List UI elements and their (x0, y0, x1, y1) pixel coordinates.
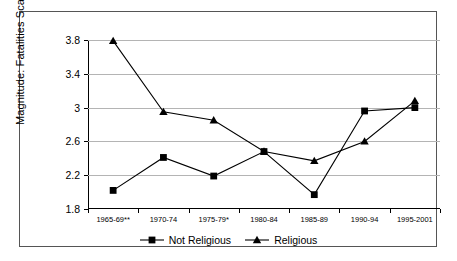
legend-item[interactable]: Religious (244, 234, 317, 246)
x-tick-mark (189, 209, 190, 213)
x-tick-label: 1975-79* (198, 216, 228, 224)
data-point-marker (109, 37, 117, 44)
x-tick-mark (339, 209, 340, 213)
legend-label: Not Religious (169, 234, 231, 246)
data-point-marker (361, 108, 368, 115)
data-point-marker (159, 108, 167, 115)
legend-triangle-icon (244, 234, 270, 246)
y-axis-title: Magnitude: Fatalities Scale (14, 0, 26, 125)
x-tick-label: 1965-69** (96, 216, 129, 224)
chart-figure: Magnitude: Fatalities Scale 1.82.22.633.… (0, 0, 457, 261)
y-tick-label: 3.8 (65, 35, 80, 46)
y-tick-label: 3.4 (65, 69, 80, 80)
y-tick-label: 2.2 (65, 170, 80, 181)
x-tick-label: 1980-84 (250, 216, 278, 224)
data-point-marker (311, 191, 318, 198)
y-tick-label: 2.6 (65, 136, 80, 147)
x-tick-label: 1985-89 (301, 216, 329, 224)
legend-square-icon (139, 234, 165, 246)
x-tick-mark (390, 209, 391, 213)
chart-legend: Not ReligiousReligious (20, 234, 436, 246)
data-point-marker (360, 137, 368, 144)
data-point-marker (411, 97, 419, 104)
data-point-marker (210, 173, 217, 180)
x-tick-label: 1995-2001 (397, 216, 433, 224)
x-tick-mark (289, 209, 290, 213)
legend-item[interactable]: Not Religious (139, 234, 231, 246)
legend-label: Religious (274, 234, 317, 246)
plot-area: 1.82.22.633.43.8 1965-69**1970-741975-79… (88, 40, 440, 209)
x-tick-mark (239, 209, 240, 213)
x-tick-label: 1970-74 (150, 216, 178, 224)
chart-frame: Magnitude: Fatalities Scale 1.82.22.633.… (19, 11, 437, 247)
series-line (113, 41, 415, 161)
data-point-marker (160, 154, 167, 161)
y-tick-label: 1.8 (65, 204, 80, 215)
data-point-marker (110, 187, 117, 194)
x-tick-mark (88, 209, 89, 213)
y-tick-label: 3 (74, 102, 80, 113)
x-tick-mark (440, 209, 441, 213)
x-tick-mark (138, 209, 139, 213)
x-tick-label: 1990-94 (351, 216, 379, 224)
data-point-marker (411, 104, 418, 111)
data-series-layer (88, 40, 440, 209)
